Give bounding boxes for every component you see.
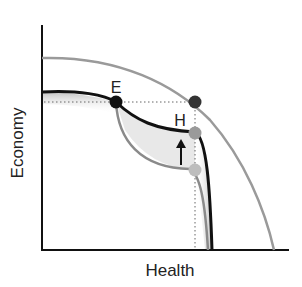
shaded-region	[42, 92, 212, 250]
y-axis-label: Economy	[8, 107, 27, 178]
point-low	[189, 164, 202, 177]
label-e: E	[111, 79, 122, 96]
label-h: H	[174, 112, 186, 129]
point-outer	[189, 96, 202, 109]
point-h	[189, 127, 202, 140]
x-axis-label: Health	[145, 261, 194, 280]
point-e	[110, 96, 123, 109]
ppf-diagram: E H Health Economy	[0, 0, 302, 287]
